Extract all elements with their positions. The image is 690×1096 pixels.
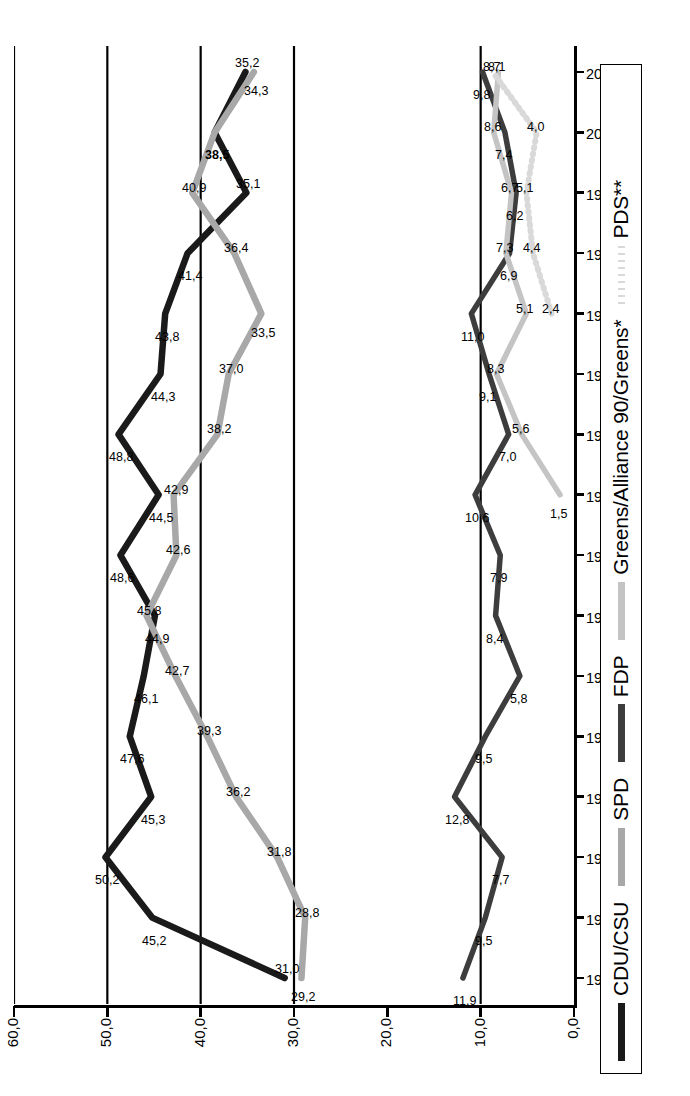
- x-axis-tick: [574, 856, 584, 859]
- data-point-label: 50,2: [95, 873, 119, 887]
- x-axis-tick: [574, 192, 584, 195]
- data-point-label: 31,0: [275, 962, 299, 976]
- data-point-label: 5,1: [516, 181, 533, 195]
- data-point-label: 45,2: [142, 934, 166, 948]
- data-point-label: 7,3: [496, 241, 513, 255]
- data-point-label: 8,4: [486, 632, 503, 646]
- data-point-label: 7,0: [499, 450, 516, 464]
- data-point-label: 1,5: [550, 507, 567, 521]
- y-axis-tick: [386, 1006, 389, 1017]
- x-axis-tick: [574, 614, 584, 617]
- x-axis-tick: [574, 675, 584, 678]
- data-point-label: 9,8: [473, 88, 490, 102]
- data-point-label: 42,9: [164, 483, 188, 497]
- data-point-label: 6,9: [500, 269, 517, 283]
- x-axis-tick: [574, 433, 584, 436]
- data-point-label: 39,3: [197, 724, 221, 738]
- legend-item-cdu-csu[interactable]: CDU/CSU: [609, 902, 633, 1061]
- rotated-chart-stage: 0,010,020,030,040,050,060,0 194919531957…: [0, 0, 690, 1096]
- data-point-label: 5,8: [510, 692, 527, 706]
- data-point-label: 43,8: [155, 330, 179, 344]
- y-axis-tick: [13, 1006, 16, 1017]
- legend-label: SPD: [609, 778, 633, 821]
- data-point-label: 41,4: [178, 269, 202, 283]
- x-axis-tick: [574, 71, 584, 74]
- data-point-label: 9,5: [475, 934, 492, 948]
- legend-item-fdp[interactable]: FDP: [609, 656, 633, 762]
- data-point-label: 5,6: [512, 422, 529, 436]
- x-axis-tick: [574, 131, 584, 134]
- data-point-label: 48,6: [110, 571, 134, 585]
- data-point-label: 7,9: [490, 571, 507, 585]
- data-point-label: 45,3: [141, 813, 165, 827]
- y-axis-tick-label: 40,0: [191, 1018, 208, 1060]
- data-point-label: 44,3: [151, 390, 175, 404]
- data-point-label: 6,2: [506, 209, 523, 223]
- data-point-label: 28,8: [295, 906, 319, 920]
- data-point-label: 38,2: [207, 422, 231, 436]
- y-axis-tick-label: 60,0: [4, 1018, 21, 1060]
- legend-swatch-icon: [618, 828, 625, 886]
- data-point-label: 37,0: [219, 362, 243, 376]
- data-point-label: 34,3: [244, 84, 268, 98]
- data-point-label: 44,9: [145, 632, 169, 646]
- data-point-label: 9,5: [475, 752, 492, 766]
- data-point-label: 45,8: [137, 604, 161, 618]
- legend-swatch-icon: [618, 246, 625, 304]
- x-axis-tick: [574, 735, 584, 738]
- chart-legend: CDU/CSUSPDFDPGreens/Alliance 90/Greens*P…: [600, 64, 642, 1074]
- line-chart-svg: [14, 46, 574, 1004]
- data-point-label: 42,6: [166, 543, 190, 557]
- data-point-label: 42,7: [165, 664, 189, 678]
- x-axis-tick: [574, 373, 584, 376]
- data-point-label: 38,5: [205, 148, 229, 162]
- data-point-label: 36,2: [226, 785, 250, 799]
- data-point-label: 7,4: [495, 148, 512, 162]
- data-point-label: 8,3: [487, 362, 504, 376]
- y-axis-tick: [293, 1006, 296, 1017]
- y-axis-tick-label: 0,0: [564, 1018, 581, 1060]
- data-point-label: 31,8: [267, 845, 291, 859]
- data-point-label: 12,8: [445, 813, 469, 827]
- chart-page: 0,010,020,030,040,050,060,0 194919531957…: [0, 0, 690, 1096]
- y-axis-tick: [106, 1006, 109, 1017]
- y-axis-tick: [199, 1006, 202, 1017]
- data-point-label: 4,4: [523, 241, 540, 255]
- x-axis-line: [574, 46, 577, 1008]
- x-axis-tick: [574, 312, 584, 315]
- legend-item-greens-alliance-90-greens[interactable]: Greens/Alliance 90/Greens*: [609, 320, 633, 640]
- legend-label: Greens/Alliance 90/Greens*: [609, 320, 633, 575]
- legend-label: FDP: [609, 656, 633, 697]
- data-point-label: 48,8: [109, 450, 133, 464]
- data-point-label: 40,9: [182, 181, 206, 195]
- y-axis-tick-label: 20,0: [377, 1018, 394, 1060]
- legend-item-pds[interactable]: PDS**: [609, 180, 633, 304]
- data-point-label: 44,5: [149, 511, 173, 525]
- data-point-label: 9,1: [479, 390, 496, 404]
- x-axis-tick: [574, 494, 584, 497]
- y-axis-tick-label: 30,0: [284, 1018, 301, 1060]
- data-point-label: 5,1: [516, 302, 533, 316]
- y-axis-tick: [479, 1006, 482, 1017]
- data-point-label: 8,6: [484, 120, 501, 134]
- data-point-label: 33,5: [251, 326, 275, 340]
- legend-item-spd[interactable]: SPD: [609, 778, 633, 886]
- data-point-label: 29,2: [291, 990, 315, 1004]
- x-axis-tick: [574, 916, 584, 919]
- legend-swatch-icon: [618, 704, 625, 762]
- data-point-label: 36,4: [224, 241, 248, 255]
- y-axis-tick-label: 10,0: [471, 1018, 488, 1060]
- data-point-label: 35,2: [235, 56, 259, 70]
- x-axis-tick: [574, 796, 584, 799]
- data-point-label: 8,7: [483, 60, 500, 74]
- data-point-label: 10,6: [465, 511, 489, 525]
- data-point-label: 47,6: [120, 752, 144, 766]
- chart-plot-area: [14, 46, 574, 1004]
- legend-swatch-icon: [618, 1003, 625, 1061]
- data-point-label: 11,9: [453, 994, 476, 1008]
- x-axis-tick: [574, 977, 584, 980]
- legend-label: CDU/CSU: [609, 902, 633, 996]
- data-point-label: 4,0: [527, 120, 544, 134]
- legend-swatch-icon: [618, 582, 625, 640]
- x-axis-tick: [574, 554, 584, 557]
